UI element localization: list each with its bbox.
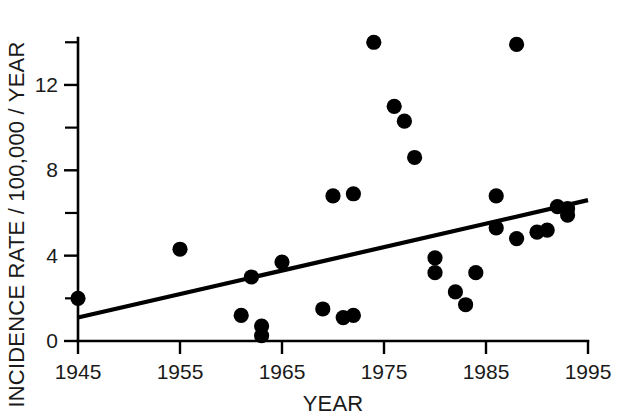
x-axis-major-ticks xyxy=(78,341,588,354)
x-axis-title: YEAR xyxy=(303,391,364,416)
data-point xyxy=(172,242,187,257)
data-point xyxy=(448,284,463,299)
data-point xyxy=(70,291,85,306)
scatter-plot-figure: 04812 194519551965197519851995 YEAR INCI… xyxy=(0,0,617,417)
x-tick-label: 1945 xyxy=(55,360,102,383)
data-point xyxy=(315,301,330,316)
data-point xyxy=(427,250,442,265)
x-tick-label: 1975 xyxy=(361,360,408,383)
x-axis-tick-labels: 194519551965197519851995 xyxy=(55,360,612,383)
data-point xyxy=(407,150,422,165)
data-point xyxy=(254,328,269,343)
data-point xyxy=(540,222,555,237)
y-tick-label: 12 xyxy=(35,73,58,96)
y-tick-label: 4 xyxy=(46,244,58,267)
data-point xyxy=(325,188,340,203)
data-point xyxy=(560,201,575,216)
data-point xyxy=(346,308,361,323)
data-point xyxy=(468,265,483,280)
x-tick-label: 1955 xyxy=(157,360,204,383)
x-tick-label: 1985 xyxy=(463,360,510,383)
data-point xyxy=(234,308,249,323)
data-point xyxy=(387,99,402,114)
data-point xyxy=(274,254,289,269)
regression-trend-line xyxy=(78,200,588,317)
y-tick-label: 0 xyxy=(46,329,58,352)
data-point xyxy=(366,35,381,50)
plot-canvas: 04812 194519551965197519851995 YEAR INCI… xyxy=(0,0,617,417)
y-tick-label: 8 xyxy=(46,158,58,181)
data-point xyxy=(509,231,524,246)
data-point xyxy=(427,265,442,280)
data-points-group xyxy=(70,35,575,344)
data-point xyxy=(244,269,259,284)
y-axis-tick-labels: 04812 xyxy=(35,73,59,352)
data-point xyxy=(509,37,524,52)
data-point xyxy=(489,220,504,235)
data-point xyxy=(489,188,504,203)
data-point xyxy=(458,297,473,312)
x-tick-label: 1965 xyxy=(259,360,306,383)
data-point xyxy=(397,114,412,129)
y-axis-title: INCIDENCE RATE / 100,000 / YEAR xyxy=(4,41,29,407)
x-tick-label: 1995 xyxy=(565,360,612,383)
data-point xyxy=(346,186,361,201)
